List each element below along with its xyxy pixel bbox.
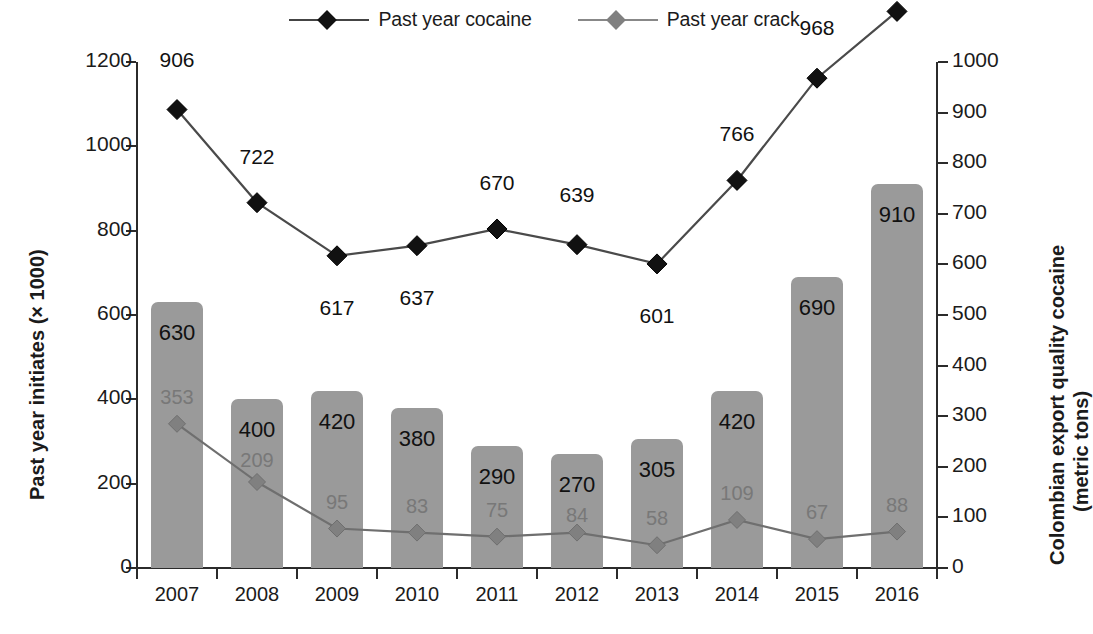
y-axis-right-tick-label: 500 — [952, 301, 987, 325]
x-axis-tick-label: 2008 — [212, 583, 302, 606]
data-point-marker — [169, 415, 186, 432]
cocaine-value-label: 766 — [692, 122, 782, 146]
x-axis-tick-label: 2009 — [292, 583, 382, 606]
y-axis-right-tick-label: 400 — [952, 352, 987, 376]
cocaine-value-label: 968 — [772, 16, 862, 40]
data-point-marker — [249, 473, 266, 490]
y-axis-left-tick-label: 0 — [120, 554, 132, 578]
data-point-marker — [567, 235, 587, 255]
y-axis-right-tick — [938, 466, 948, 468]
x-axis-tick — [856, 568, 858, 579]
y-axis-right-tick — [938, 162, 948, 164]
y-axis-left-tick-label: 800 — [97, 217, 132, 241]
x-axis-tick-label: 2010 — [372, 583, 462, 606]
y-axis-right-tick-label: 900 — [952, 99, 987, 123]
y-axis-right-tick-label: 300 — [952, 402, 987, 426]
x-axis-tick — [136, 568, 138, 579]
x-axis-tick-label: 2007 — [132, 583, 222, 606]
data-point-marker — [649, 537, 666, 554]
legend-item-cocaine: Past year cocaine — [289, 8, 531, 31]
cocaine-value-label: 722 — [212, 145, 302, 169]
y-axis-right-tick-label: 200 — [952, 453, 987, 477]
x-axis-tick — [936, 568, 938, 579]
y-axis-right-tick-label: 800 — [952, 149, 987, 173]
y-axis-right-title-line1: Colombian export quality cocaine — [1046, 245, 1069, 565]
cocaine-value-label: 617 — [292, 296, 382, 320]
y-axis-left-title: Past year initiates (× 1000) — [26, 249, 49, 500]
legend-item-crack: Past year crack — [578, 8, 800, 31]
line-crack — [177, 424, 897, 545]
legend-marker-cocaine-icon — [289, 13, 369, 27]
y-axis-left-tick-label: 400 — [97, 385, 132, 409]
y-axis-right-title-line2: (metric tons) — [1070, 391, 1093, 512]
y-axis-right-tick — [938, 516, 948, 518]
cocaine-value-label: 637 — [372, 286, 462, 310]
x-axis-tick — [456, 568, 458, 579]
y-axis-right-tick — [938, 61, 948, 63]
x-axis-tick — [216, 568, 218, 579]
y-axis-right-tick — [938, 112, 948, 114]
x-axis-tick-label: 2016 — [852, 583, 942, 606]
y-axis-left-tick-label: 1000 — [85, 132, 132, 156]
y-axis-right-tick-label: 700 — [952, 200, 987, 224]
y-axis-left-tick-label: 200 — [97, 470, 132, 494]
data-point-marker — [329, 520, 346, 537]
y-axis-right-tick — [938, 314, 948, 316]
line-series-group — [137, 62, 937, 569]
x-axis-tick — [536, 568, 538, 579]
data-point-marker — [327, 246, 347, 266]
y-axis-right-tick — [938, 365, 948, 367]
y-axis-right-tick-label: 600 — [952, 250, 987, 274]
y-axis-right-tick-label: 0 — [952, 554, 964, 578]
data-point-marker — [409, 524, 426, 541]
y-axis-left-tick-label: 600 — [97, 301, 132, 325]
legend-label-cocaine: Past year cocaine — [378, 8, 531, 31]
cocaine-value-label: 906 — [132, 48, 222, 72]
x-axis-tick — [296, 568, 298, 579]
cocaine-value-label: 601 — [612, 304, 702, 328]
x-axis-tick-label: 2014 — [692, 583, 782, 606]
data-point-marker — [729, 511, 746, 528]
x-axis-tick-label: 2015 — [772, 583, 862, 606]
y-axis-right-tick-label: 1000 — [952, 48, 999, 72]
cocaine-value-label: 670 — [452, 171, 542, 195]
data-point-marker — [487, 219, 507, 239]
x-axis-tick — [376, 568, 378, 579]
data-point-marker — [407, 236, 427, 256]
x-axis-tick — [776, 568, 778, 579]
x-axis-tick-label: 2013 — [612, 583, 702, 606]
data-point-marker — [809, 531, 826, 548]
y-axis-left-tick-label: 1200 — [85, 48, 132, 72]
cocaine-value-label: 639 — [532, 183, 622, 207]
y-axis-right-tick — [938, 415, 948, 417]
data-point-marker — [489, 528, 506, 545]
x-axis-tick — [696, 568, 698, 579]
x-axis-tick-label: 2011 — [452, 583, 542, 606]
data-point-marker — [569, 524, 586, 541]
y-axis-right-tick — [938, 263, 948, 265]
chart-legend: Past year cocaine Past year crack — [0, 8, 1089, 31]
y-axis-right-tick — [938, 567, 948, 569]
x-axis-tick-label: 2012 — [532, 583, 622, 606]
x-axis-tick — [616, 568, 618, 579]
plot-area: 020040060080010001200 010020030040050060… — [137, 62, 937, 568]
line-cocaine — [177, 11, 897, 263]
y-axis-right-tick-label: 100 — [952, 503, 987, 527]
data-point-marker — [889, 523, 906, 540]
legend-marker-crack-icon — [578, 13, 658, 27]
